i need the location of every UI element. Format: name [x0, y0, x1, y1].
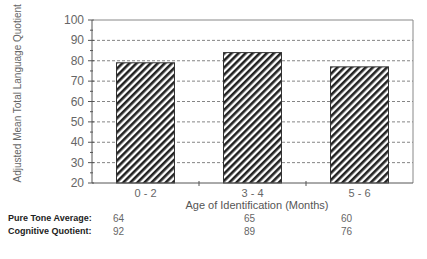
y-axis-label: Adjusted Mean Total Language Quotient: [12, 13, 23, 183]
y-tick-label: 60: [71, 95, 85, 109]
x-tick-label: 3 - 4: [241, 187, 263, 199]
bars: [117, 53, 389, 183]
bar: [331, 67, 389, 183]
y-tick-label: 40: [71, 135, 85, 149]
pta-value: 65: [244, 213, 255, 224]
pta-value: 64: [113, 213, 124, 224]
cq-value: 76: [341, 226, 352, 237]
bar: [224, 53, 282, 183]
y-tick-label: 50: [71, 115, 85, 129]
y-tick-label: 20: [71, 176, 85, 190]
cq-value: 89: [244, 226, 255, 237]
x-tick-label: 0 - 2: [134, 187, 156, 199]
pure-tone-average-label: Pure Tone Average:: [8, 213, 92, 223]
y-tick-label: 70: [71, 74, 85, 88]
y-tick-label: 80: [71, 54, 85, 68]
y-tick-label: 100: [64, 13, 84, 27]
bar: [117, 63, 175, 183]
cq-value: 92: [113, 226, 124, 237]
pta-value: 60: [341, 213, 352, 224]
y-tick-label: 90: [71, 33, 85, 47]
cognitive-quotient-label: Cognitive Quotient:: [8, 226, 92, 236]
x-tick-label: 5 - 6: [348, 187, 370, 199]
x-axis-label: Age of Identification (Months): [92, 199, 422, 211]
y-tick-label: 30: [71, 156, 85, 170]
